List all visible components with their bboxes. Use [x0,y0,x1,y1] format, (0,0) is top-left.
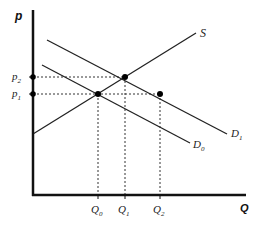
p2-axis-dot [30,74,36,80]
axes [32,10,246,196]
q1-label: Q1 [118,203,129,218]
supply-curve [33,33,196,134]
x-axis-label: Q [240,202,249,214]
equilibrium-point-s-d1 [122,74,128,80]
q0-label: Q0 [91,203,103,218]
y-axis-label: p [14,9,22,23]
d1-label: D1 [230,127,242,142]
curves [33,33,227,143]
p2-label: p2 [11,70,22,85]
p1-axis-dot [30,91,36,97]
d1-point-at-p1 [157,91,163,97]
supply-label: S [200,26,206,40]
d0-label: D0 [192,138,205,153]
p1-label: p1 [11,87,21,102]
equilibrium-point-s-d0 [95,91,101,97]
demand-curve-d1 [47,40,227,134]
q2-label: Q2 [153,203,165,218]
supply-demand-diagram: p Q S D1 D0 p2 p1 Q0 Q1 Q2 [0,0,267,227]
